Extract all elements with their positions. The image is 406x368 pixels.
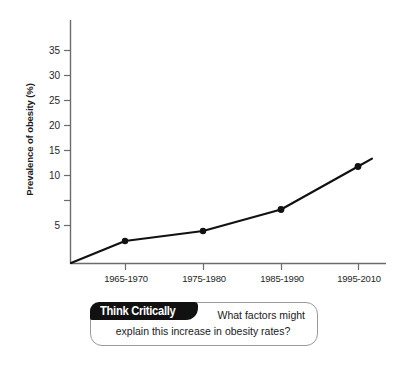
obesity-trend-line (71, 159, 372, 263)
chart-plot-svg (0, 0, 406, 292)
data-point-marker (122, 238, 128, 244)
y-tick-label-30: 30 (38, 71, 60, 81)
y-tick-label-15: 15 (38, 146, 60, 156)
think-critically-tab: Think Critically (90, 302, 198, 320)
data-point-marker (355, 163, 362, 170)
y-tick-label-10: 10 (38, 171, 60, 181)
x-tick-label-1995-2010: 1995-2010 (319, 274, 399, 284)
data-point-marker (278, 206, 285, 213)
think-critically-callout: What factors might explain this increase… (90, 302, 318, 346)
y-tick-label-35: 35 (38, 46, 60, 56)
y-axis-title: Prevalence of obesity (%) (24, 60, 35, 220)
x-tick-label-1975-1980: 1975-1980 (164, 274, 244, 284)
y-tick-label-5: 5 (38, 221, 60, 231)
callout-question-line-2: explain this increase in obesity rates? (103, 323, 305, 339)
think-critically-tab-label: Think Critically (100, 304, 176, 318)
y-tick-label-20: 20 (38, 121, 60, 131)
y-tick-label-25: 25 (38, 96, 60, 106)
obesity-prevalence-figure: Prevalence of obesity (%) 35 30 25 20 15… (0, 0, 406, 368)
x-tick-label-1985-1990: 1985-1990 (242, 274, 322, 284)
y-axis-ticks (64, 51, 70, 226)
data-point-marker (200, 228, 206, 234)
data-point-markers (122, 163, 362, 244)
x-tick-label-1965-1970: 1965-1970 (86, 274, 166, 284)
line-chart: Prevalence of obesity (%) 35 30 25 20 15… (0, 0, 406, 292)
